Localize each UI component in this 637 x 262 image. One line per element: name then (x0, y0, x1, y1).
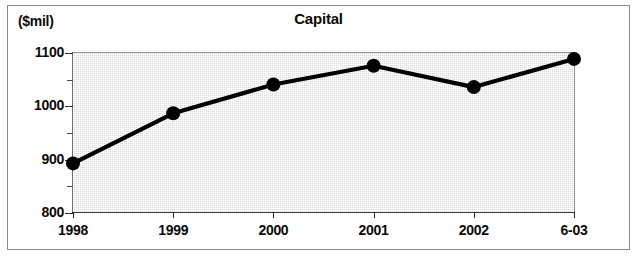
x-tick (273, 212, 274, 218)
x-tick-label: 6-03 (529, 222, 619, 238)
plot-area (73, 53, 574, 213)
x-tick-label: 1999 (128, 222, 218, 238)
x-axis-line (72, 212, 575, 213)
x-tick (374, 212, 375, 218)
y-tick-major (65, 160, 73, 161)
x-tick-label: 2002 (429, 222, 519, 238)
x-tick (474, 212, 475, 218)
x-tick-label: 1998 (28, 222, 118, 238)
y-tick-major (65, 213, 73, 214)
y-tick-label: 900 (2, 151, 64, 167)
chart-title: Capital (0, 10, 637, 27)
x-tick (173, 212, 174, 218)
x-tick (73, 212, 74, 218)
y-tick-major (65, 53, 73, 54)
chart-figure: Capital ($mil) 80090010001100 1998199920… (0, 0, 637, 262)
plot-top-border (72, 52, 575, 53)
y-tick-label: 1100 (2, 44, 64, 60)
y-tick-minor (67, 133, 73, 134)
x-tick-label: 2000 (228, 222, 318, 238)
plot-right-border (574, 52, 575, 214)
x-tick (574, 212, 575, 218)
x-tick-label: 2001 (329, 222, 419, 238)
y-tick-major (65, 106, 73, 107)
y-axis-unit-label: ($mil) (18, 13, 54, 29)
y-tick-minor (67, 186, 73, 187)
y-tick-minor (67, 80, 73, 81)
y-tick-label: 800 (2, 204, 64, 220)
y-tick-label: 1000 (2, 97, 64, 113)
